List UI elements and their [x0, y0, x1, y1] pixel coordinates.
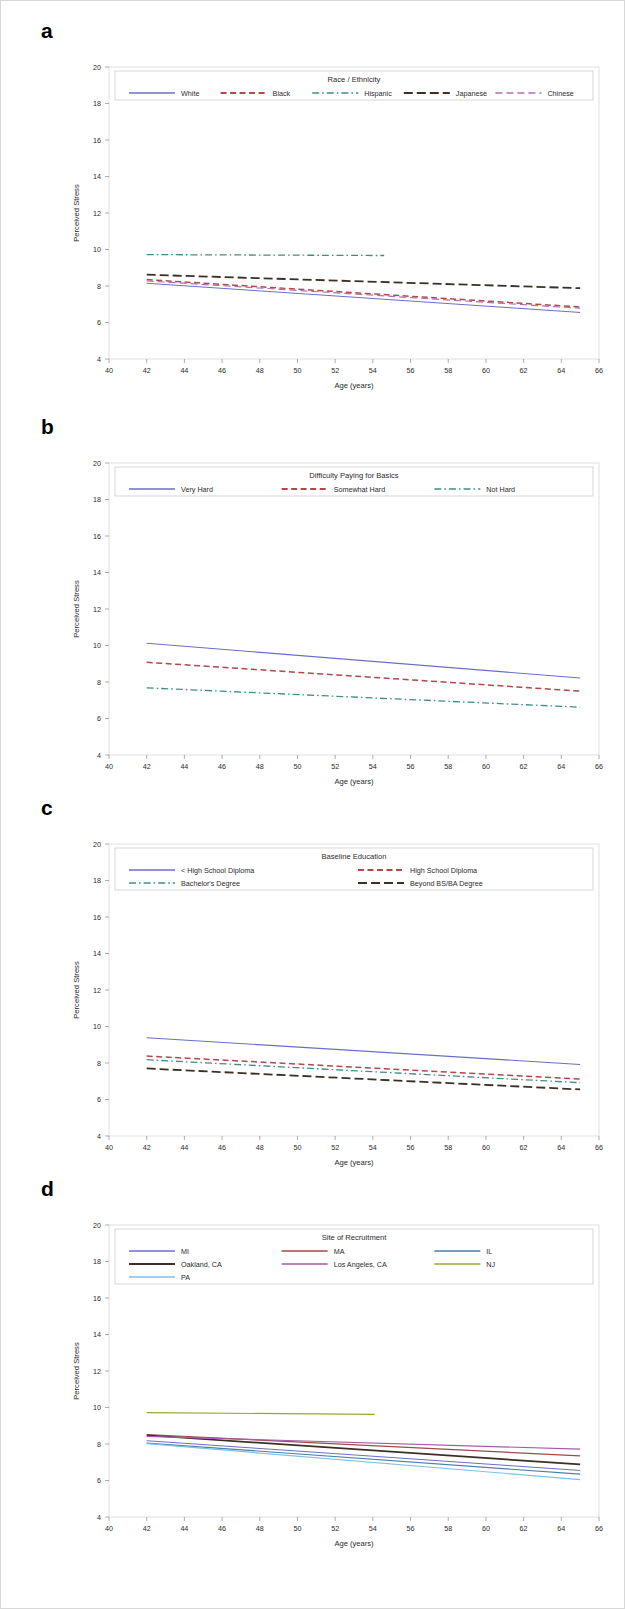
y-tick-label: 18	[93, 99, 101, 108]
x-tick-label: 62	[520, 1143, 528, 1152]
x-axis-title: Age (years)	[334, 381, 374, 390]
x-tick-label: 40	[105, 762, 113, 771]
y-tick-label: 6	[97, 714, 101, 723]
series-line	[147, 255, 384, 256]
y-tick-label: 16	[93, 136, 101, 145]
legend-label: NJ	[486, 1260, 495, 1269]
x-tick-label: 52	[331, 762, 339, 771]
legend-label: Very Hard	[181, 485, 213, 494]
y-axis-title: Perceived Stress	[72, 1342, 81, 1400]
x-tick-label: 60	[482, 1143, 490, 1152]
y-tick-label: 6	[97, 318, 101, 327]
x-tick-label: 52	[331, 1524, 339, 1533]
series-line	[147, 643, 580, 678]
y-tick-label: 14	[93, 172, 101, 181]
y-tick-label: 8	[97, 282, 101, 291]
y-tick-label: 16	[93, 913, 101, 922]
series-line	[147, 662, 580, 691]
x-tick-label: 58	[444, 366, 452, 375]
y-axis-title: Perceived Stress	[72, 184, 81, 242]
y-tick-label: 20	[93, 1221, 101, 1230]
panel-letter-d: d	[41, 1177, 53, 1201]
x-tick-label: 42	[143, 762, 151, 771]
x-tick-label: 40	[105, 1524, 113, 1533]
y-tick-label: 4	[97, 355, 101, 364]
y-tick-label: 16	[93, 1294, 101, 1303]
figure-container: a468101214161820404244464850525456586062…	[0, 0, 625, 1609]
y-tick-label: 12	[93, 605, 101, 614]
y-tick-label: 6	[97, 1476, 101, 1485]
legend-label: Los Angeles, CA	[334, 1260, 387, 1269]
x-tick-label: 66	[595, 1143, 603, 1152]
x-tick-label: 44	[180, 1524, 188, 1533]
x-tick-label: 46	[218, 366, 226, 375]
x-tick-label: 60	[482, 1524, 490, 1533]
chart-d: 4681012141618204042444648505254565860626…	[1, 1177, 625, 1552]
legend-label: Black	[273, 89, 291, 98]
x-axis-title: Age (years)	[334, 777, 374, 786]
legend-label: High School Diploma	[410, 866, 477, 875]
x-tick-label: 62	[520, 762, 528, 771]
x-tick-label: 62	[520, 1524, 528, 1533]
x-tick-label: 42	[143, 1524, 151, 1533]
y-tick-label: 8	[97, 1440, 101, 1449]
x-tick-label: 46	[218, 1524, 226, 1533]
x-tick-label: 56	[407, 762, 415, 771]
series-line	[147, 283, 580, 312]
panel-b: b468101214161820404244464850525456586062…	[1, 415, 625, 790]
x-tick-label: 58	[444, 1524, 452, 1533]
y-tick-label: 20	[93, 63, 101, 72]
legend-label: White	[181, 89, 199, 98]
x-tick-label: 50	[293, 366, 301, 375]
legend-title: Difficulty Paying for Basics	[309, 471, 399, 480]
chart-c: 4681012141618204042444648505254565860626…	[1, 796, 625, 1171]
series-line	[147, 1038, 580, 1065]
legend-label: PA	[181, 1273, 190, 1282]
plot-frame	[109, 67, 599, 359]
x-tick-label: 42	[143, 1143, 151, 1152]
x-tick-label: 60	[482, 366, 490, 375]
x-tick-label: 54	[369, 366, 377, 375]
x-tick-label: 64	[557, 1143, 565, 1152]
y-tick-label: 18	[93, 1257, 101, 1266]
plot-frame	[109, 1225, 599, 1517]
plot-frame	[109, 844, 599, 1136]
x-tick-label: 50	[293, 762, 301, 771]
panel-letter-c: c	[41, 796, 52, 820]
y-tick-label: 16	[93, 532, 101, 541]
series-line	[147, 275, 580, 289]
y-tick-label: 20	[93, 459, 101, 468]
y-tick-label: 10	[93, 1022, 101, 1031]
y-tick-label: 10	[93, 1403, 101, 1412]
y-axis-title: Perceived Stress	[72, 961, 81, 1019]
x-tick-label: 62	[520, 366, 528, 375]
y-tick-label: 12	[93, 1367, 101, 1376]
x-tick-label: 64	[557, 1524, 565, 1533]
x-tick-label: 64	[557, 366, 565, 375]
x-tick-label: 40	[105, 1143, 113, 1152]
series-line	[147, 1056, 580, 1079]
x-tick-label: 50	[293, 1524, 301, 1533]
y-tick-label: 8	[97, 1059, 101, 1068]
legend-title: Race / Ethnicity	[328, 75, 381, 84]
x-tick-label: 44	[180, 366, 188, 375]
series-line	[147, 281, 580, 308]
legend-label: Japanese	[456, 89, 487, 98]
x-tick-label: 46	[218, 762, 226, 771]
panel-c: c468101214161820404244464850525456586062…	[1, 796, 625, 1171]
plot-frame	[109, 463, 599, 755]
y-tick-label: 20	[93, 840, 101, 849]
series-line	[147, 1413, 375, 1415]
chart-b: 4681012141618204042444648505254565860626…	[1, 415, 625, 790]
y-tick-label: 14	[93, 568, 101, 577]
x-tick-label: 56	[407, 1143, 415, 1152]
x-tick-label: 54	[369, 1143, 377, 1152]
y-tick-label: 12	[93, 209, 101, 218]
series-line	[147, 688, 580, 707]
panel-d: d468101214161820404244464850525456586062…	[1, 1177, 625, 1552]
legend-label: IL	[486, 1247, 492, 1256]
y-tick-label: 4	[97, 1132, 101, 1141]
y-tick-label: 14	[93, 949, 101, 958]
x-tick-label: 66	[595, 1524, 603, 1533]
x-tick-label: 44	[180, 1143, 188, 1152]
